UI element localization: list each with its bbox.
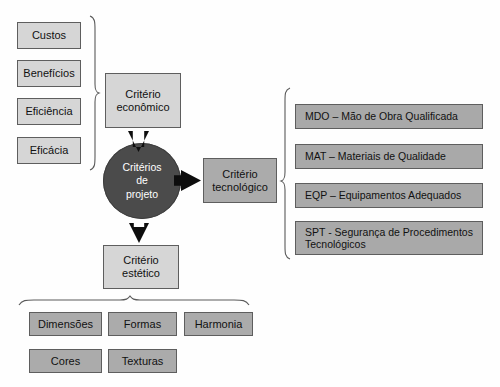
economic-item-label: Eficiência xyxy=(25,105,72,118)
aesthetic-item-box-1: Formas xyxy=(108,312,177,336)
center-node-line1: Critérios xyxy=(122,161,161,174)
economic-item-box-1: Benefícios xyxy=(17,60,81,87)
center-node-criterios-de-projeto: Critérios de projeto xyxy=(103,143,181,219)
brace-economic-group xyxy=(90,16,99,170)
criterio-tecnologico-line2: tecnológico xyxy=(212,181,268,194)
aesthetic-item-box-0: Dimensões xyxy=(29,312,102,336)
brace-aesthetic-group xyxy=(19,296,249,305)
criterio-estetico-line1: Critério xyxy=(123,254,158,267)
criterio-economico-line2: econômico xyxy=(116,101,169,114)
aesthetic-item-label: Dimensões xyxy=(38,318,93,331)
technological-item-label: SPT - Segurança de Procedimentos Tecnoló… xyxy=(305,226,476,251)
aesthetic-item-box-3: Cores xyxy=(29,349,102,373)
criterio-tecnologico-line1: Critério xyxy=(222,168,257,181)
aesthetic-item-label: Cores xyxy=(51,355,80,368)
arrow-down-to-estetico xyxy=(129,223,149,243)
aesthetic-item-box-2: Harmonia xyxy=(184,312,253,336)
aesthetic-item-label: Harmonia xyxy=(195,318,243,331)
technological-item-box-2: EQP – Equipamentos Adequados xyxy=(295,183,483,208)
aesthetic-item-label: Formas xyxy=(124,318,161,331)
center-node-line3: projeto xyxy=(126,188,158,201)
brace-technological-group xyxy=(281,88,290,259)
economic-item-box-2: Eficiência xyxy=(17,98,81,125)
technological-item-label: MAT – Materiais de Qualidade xyxy=(305,150,446,162)
criterio-estetico-box: Critério estético xyxy=(103,245,179,289)
technological-item-label: MDO – Mão de Obra Qualificada xyxy=(305,110,458,122)
economic-item-label: Custos xyxy=(32,29,66,42)
technological-item-box-0: MDO – Mão de Obra Qualificada xyxy=(295,104,483,129)
aesthetic-item-label: Texturas xyxy=(122,355,164,368)
center-node-line2: de xyxy=(136,174,148,187)
technological-item-label: EQP – Equipamentos Adequados xyxy=(305,189,461,201)
criterio-estetico-line2: estético xyxy=(122,267,160,280)
criterio-economico-line1: Critério xyxy=(125,88,160,101)
economic-item-label: Benefícios xyxy=(23,67,74,80)
criterio-economico-box: Critério econômico xyxy=(105,73,181,128)
criterio-tecnologico-box: Critério tecnológico xyxy=(203,158,277,203)
technological-item-box-3: SPT - Segurança de Procedimentos Tecnoló… xyxy=(295,221,483,255)
economic-item-label: Eficácia xyxy=(30,144,69,157)
technological-item-box-1: MAT – Materiais de Qualidade xyxy=(295,144,483,169)
aesthetic-item-box-4: Texturas xyxy=(108,349,177,373)
diagram-canvas: Custos Benefícios Eficiência Eficácia Cr… xyxy=(0,0,500,387)
economic-item-box-0: Custos xyxy=(17,22,81,49)
economic-item-box-3: Eficácia xyxy=(17,137,81,164)
